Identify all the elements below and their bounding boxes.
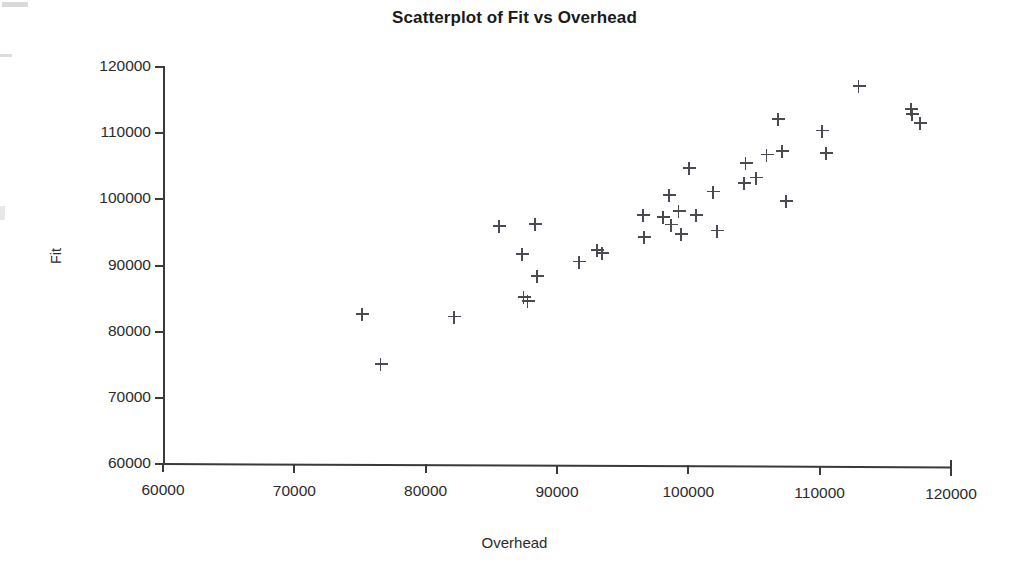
data-point bbox=[820, 147, 833, 160]
data-point bbox=[914, 117, 927, 130]
data-point bbox=[529, 218, 542, 231]
x-axis-tick-label: 120000 bbox=[896, 485, 1006, 503]
x-axis-tick bbox=[950, 467, 952, 476]
data-point bbox=[531, 270, 544, 283]
data-point bbox=[522, 295, 535, 308]
x-axis-tick bbox=[162, 463, 164, 472]
y-axis-tick-label: 100000 bbox=[71, 189, 151, 207]
y-axis-tick bbox=[155, 198, 164, 200]
x-axis-tick-label: 80000 bbox=[371, 482, 481, 500]
data-point bbox=[637, 209, 650, 222]
data-point bbox=[448, 311, 461, 324]
data-point bbox=[690, 209, 703, 222]
data-point bbox=[772, 113, 785, 126]
data-point bbox=[853, 80, 866, 93]
y-axis-tick-label: 80000 bbox=[71, 322, 151, 340]
data-point bbox=[780, 195, 793, 208]
y-axis-tick-label: 70000 bbox=[71, 388, 151, 406]
y-axis-tick bbox=[155, 265, 164, 267]
x-axis-tick bbox=[819, 466, 821, 475]
y-axis-tick-label: 60000 bbox=[71, 454, 151, 472]
x-axis-tick-label: 100000 bbox=[633, 483, 743, 501]
x-axis-tick-label: 90000 bbox=[502, 483, 612, 501]
y-axis-tick bbox=[155, 66, 164, 68]
x-axis-tick bbox=[425, 464, 427, 473]
y-axis-tick-label: 120000 bbox=[71, 57, 151, 75]
data-point bbox=[816, 125, 829, 138]
y-axis-title: Fit bbox=[48, 226, 64, 286]
data-point bbox=[516, 248, 529, 261]
data-point bbox=[711, 225, 724, 238]
y-axis-tick bbox=[155, 331, 164, 333]
y-axis-tick bbox=[155, 132, 164, 134]
data-point bbox=[375, 358, 388, 371]
data-point bbox=[493, 220, 506, 233]
data-point bbox=[356, 308, 369, 321]
scatter-plot-area: 60000700008000090000100000110000120000 6… bbox=[0, 0, 1029, 574]
y-axis-tick-label: 110000 bbox=[71, 123, 151, 141]
x-axis-title: Overhead bbox=[0, 534, 1029, 551]
data-point bbox=[596, 247, 609, 260]
data-point bbox=[573, 256, 586, 269]
data-point bbox=[638, 231, 651, 244]
y-axis-tick bbox=[155, 397, 164, 399]
x-axis-tick-label: 110000 bbox=[765, 484, 875, 502]
data-point bbox=[683, 162, 696, 175]
x-axis-tick bbox=[293, 464, 295, 473]
x-axis-tick-label: 70000 bbox=[239, 482, 349, 500]
data-point bbox=[675, 228, 688, 241]
data-point bbox=[663, 189, 676, 202]
data-point bbox=[776, 145, 789, 158]
data-point bbox=[707, 186, 720, 199]
data-point bbox=[740, 157, 753, 170]
x-axis-tick-label: 60000 bbox=[108, 481, 218, 499]
x-axis-tick bbox=[687, 465, 689, 474]
chart-page: Scatterplot of Fit vs Overhead 600007000… bbox=[0, 0, 1029, 574]
x-axis-tick bbox=[556, 465, 558, 474]
data-point bbox=[673, 205, 686, 218]
data-point bbox=[761, 149, 774, 162]
y-axis-tick-label: 90000 bbox=[71, 256, 151, 274]
data-point bbox=[750, 172, 763, 185]
